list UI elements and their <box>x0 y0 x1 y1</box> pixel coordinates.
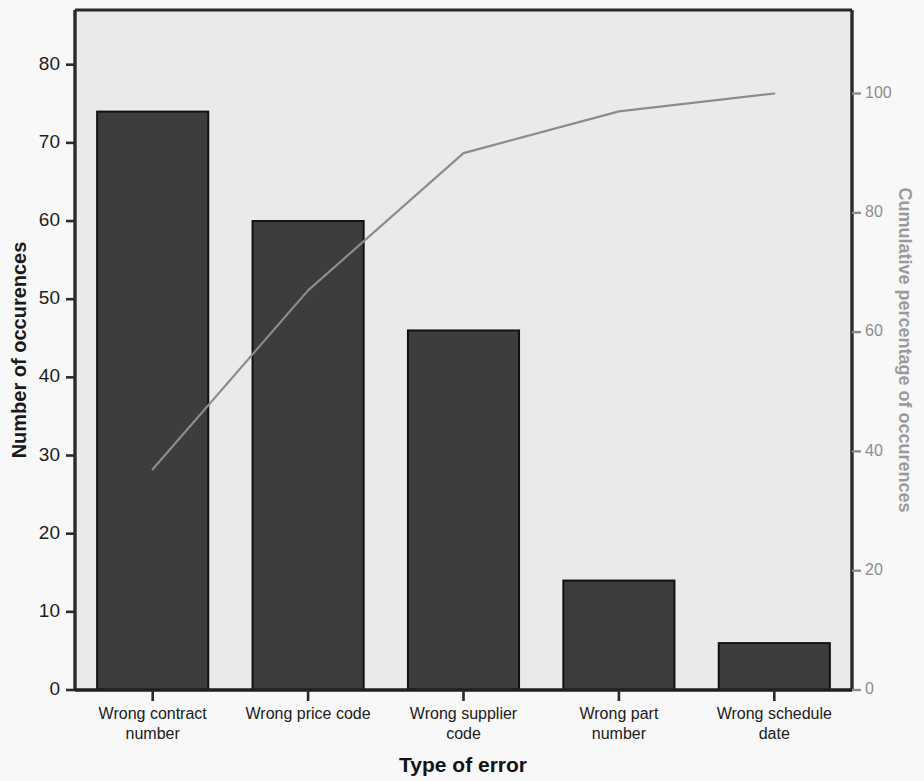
x-axis-title: Type of error <box>399 753 527 776</box>
bar <box>563 581 674 690</box>
right-axis-tick-label: 20 <box>865 561 883 578</box>
left-axis-tick-label: 50 <box>39 287 60 308</box>
left-axis-tick-label: 30 <box>39 444 60 465</box>
chart-canvas: 01020304050607080 020406080100 Wrong con… <box>0 0 924 781</box>
left-axis-tick-label: 20 <box>39 522 60 543</box>
left-axis-tick-label: 70 <box>39 131 60 152</box>
left-axis-tick-label: 40 <box>39 365 60 386</box>
left-axis-tick-label: 80 <box>39 53 60 74</box>
x-axis-category-label: Wrong price code <box>246 705 371 722</box>
x-axis-category-label: Wrong contract <box>99 705 208 722</box>
x-axis-category-label: Wrong part <box>579 705 658 722</box>
left-axis-tick-label: 10 <box>39 600 60 621</box>
y2-axis-title: Cumulative percentage of occurences <box>895 187 915 512</box>
right-axis-tick-label: 60 <box>865 322 883 339</box>
y-axis-title: Number of occurences <box>8 242 30 459</box>
bar <box>719 643 830 690</box>
x-axis-category-label: code <box>446 725 481 742</box>
left-axis-tick-label: 60 <box>39 209 60 230</box>
bar <box>97 112 208 690</box>
x-axis-category-label: date <box>759 725 790 742</box>
right-axis-tick-label: 0 <box>865 680 874 697</box>
bar <box>408 330 519 690</box>
x-axis-category-label: number <box>592 725 647 742</box>
left-axis-tick-label: 0 <box>49 678 60 699</box>
pareto-chart: 01020304050607080 020406080100 Wrong con… <box>0 0 924 781</box>
right-axis-tick-label: 40 <box>865 442 883 459</box>
x-axis-category-label: Wrong supplier <box>410 705 518 722</box>
x-axis-category-label: number <box>126 725 181 742</box>
right-axis-tick-label: 80 <box>865 203 883 220</box>
right-axis-tick-label: 100 <box>865 84 892 101</box>
x-axis-category-label: Wrong schedule <box>717 705 832 722</box>
